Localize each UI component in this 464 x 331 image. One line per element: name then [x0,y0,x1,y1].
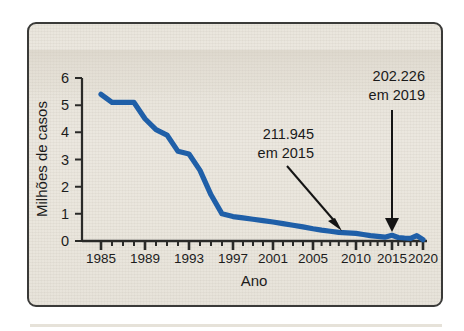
x-tick-label-2015: 2015 [377,251,407,266]
annotation-2019: 202.226 em 2019 [369,68,425,232]
annotation-2019-value: 202.226 [373,68,425,84]
chart-figure-frame: 0 1 2 3 4 5 6 19851989199319972001200520… [27,22,443,307]
x-tick-label-1997: 1997 [218,251,248,266]
y-tick-label-1: 1 [61,206,69,222]
x-tick-label-2010: 2010 [341,251,371,266]
annotation-2019-arrow [385,110,399,232]
annotation-2015-value: 211.945 [263,126,314,142]
x-tick-label-2005: 2005 [298,251,328,266]
x-axis-tick-labels: 198519891993199720012005201020152020 [86,251,438,266]
x-tick-label-2001: 2001 [258,251,288,266]
y-tick-label-3: 3 [61,152,69,168]
x-tick-label-1993: 1993 [174,251,204,266]
y-axis-title: Milhões de casos [33,101,50,217]
page-bottom-rule [30,324,442,327]
series-line-casos [101,94,423,239]
x-axis-title: Ano [241,272,268,289]
annotation-2015: 211.945 em 2015 [258,126,342,231]
x-tick-label-1989: 1989 [130,251,160,266]
annotation-2015-arrow [287,166,342,231]
y-tick-label-0: 0 [61,233,69,249]
x-tick-label-2020: 2020 [408,251,438,266]
y-tick-label-4: 4 [61,124,69,140]
annotation-2019-year: em 2019 [369,87,425,103]
data-series-group [101,94,423,239]
y-tick-label-5: 5 [61,97,69,113]
line-chart: 0 1 2 3 4 5 6 19851989199319972001200520… [29,24,441,305]
x-axis-ticks [101,241,423,250]
x-tick-label-1985: 1985 [86,251,116,266]
annotation-2015-year: em 2015 [258,145,314,161]
y-axis-tick-labels: 0 1 2 3 4 5 6 [61,70,69,249]
y-tick-label-6: 6 [61,70,69,86]
y-tick-label-2: 2 [61,179,69,195]
